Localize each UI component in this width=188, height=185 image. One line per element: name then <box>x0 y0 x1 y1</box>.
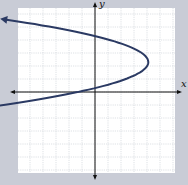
y-axis-up-arrow-icon <box>93 2 97 7</box>
x-axis-right-arrow-icon <box>177 90 182 94</box>
y-axis-label: y <box>98 0 105 9</box>
x-axis-left-arrow-icon <box>10 90 15 94</box>
curve-top-arrow-icon <box>0 16 8 24</box>
x-axis-label: x <box>181 78 187 89</box>
y-axis-down-arrow-icon <box>93 175 97 180</box>
chart-plot: x y <box>0 0 188 185</box>
grid-background <box>18 8 175 173</box>
